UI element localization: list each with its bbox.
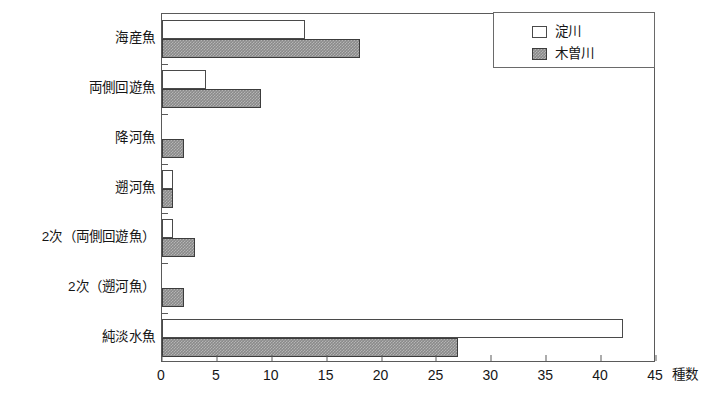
y-axis-tick-label: 2次（遡河魚） (7, 280, 155, 294)
y-axis-tick-mark (162, 313, 168, 314)
x-axis-tick-label: 0 (157, 368, 165, 382)
x-axis-tick-label: 40 (592, 368, 608, 382)
x-axis-tick-mark (216, 355, 217, 361)
bar-series-a (162, 170, 173, 189)
x-axis-tick-label: 5 (212, 368, 220, 382)
y-axis-tick-label: 降河魚 (7, 131, 155, 145)
x-axis-tick-mark (162, 355, 163, 361)
x-axis-tick-mark (546, 355, 547, 361)
x-axis-tick-mark (326, 355, 327, 361)
y-axis-tick-mark (162, 164, 168, 165)
x-axis-tick-label: 15 (318, 368, 334, 382)
x-axis-tick-mark (271, 355, 272, 361)
x-axis-tick-mark (656, 355, 657, 361)
y-axis-tick-mark (162, 263, 168, 264)
y-axis-label-group: 海産魚両側回遊魚降河魚遡河魚2次（両側回遊魚）2次（遡河魚）純淡水魚 (0, 0, 155, 413)
bar-series-a (162, 70, 206, 89)
legend: 淀川 木曽川 (493, 12, 655, 68)
y-axis-tick-label: 両側回遊魚 (7, 81, 155, 95)
bar-series-a (162, 319, 623, 338)
legend-swatch-yodogawa (532, 26, 547, 38)
bar-chart-figure: 海産魚両側回遊魚降河魚遡河魚2次（両側回遊魚）2次（遡河魚）純淡水魚 05101… (0, 0, 718, 413)
x-axis-tick-label: 35 (537, 368, 553, 382)
y-axis-tick-mark (162, 114, 168, 115)
bar-series-b (162, 89, 261, 108)
legend-swatch-kisogawa (532, 48, 547, 60)
bar-series-b (162, 189, 173, 208)
legend-item-series-b: 木曽川 (532, 44, 654, 64)
x-axis-tick-label: 45 (647, 368, 663, 382)
y-axis-tick-mark (162, 213, 168, 214)
x-axis-tick-label: 20 (373, 368, 389, 382)
x-axis-tick-mark (436, 355, 437, 361)
bar-series-b (162, 288, 184, 307)
y-axis-tick-label: 純淡水魚 (7, 330, 155, 344)
y-axis-tick-mark (162, 64, 168, 65)
bar-series-b (162, 238, 195, 257)
x-axis-tick-label: 10 (263, 368, 279, 382)
bar-series-a (162, 20, 305, 39)
bar-series-b (162, 338, 458, 357)
bar-series-a (162, 219, 173, 238)
x-axis-tick-label: 25 (428, 368, 444, 382)
legend-label-kisogawa: 木曽川 (555, 47, 594, 61)
bar-series-b (162, 39, 360, 58)
legend-label-yodogawa: 淀川 (555, 25, 581, 39)
x-axis-title: 種数 (672, 368, 698, 382)
legend-item-series-a: 淀川 (532, 22, 654, 42)
x-axis-tick-mark (381, 355, 382, 361)
bar-series-b (162, 139, 184, 158)
x-axis-tick-mark (601, 355, 602, 361)
x-axis-tick-mark (491, 355, 492, 361)
y-axis-tick-label: 海産魚 (7, 31, 155, 45)
y-axis-tick-label: 2次（両側回遊魚） (7, 231, 155, 245)
x-axis-tick-label: 30 (483, 368, 499, 382)
y-axis-tick-label: 遡河魚 (7, 181, 155, 195)
